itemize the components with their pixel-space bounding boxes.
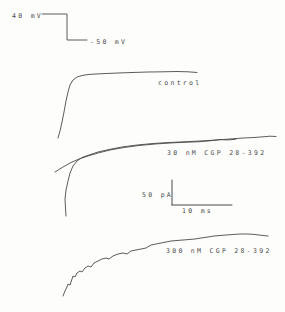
cgp300-trace [63,234,268,296]
voltage-step-top-label: 40 mV [12,12,43,20]
voltage-step-bottom-label: -50 mV [90,38,127,46]
control-trace-label: control [158,79,202,87]
cgp30-trace-label: 30 nM CGP 28-392 [167,149,266,157]
scale-bar-time-label: 10 ms [182,207,213,215]
cgp300-trace-label: 300 nM CGP 28-392 [166,247,272,255]
voltage-step-trace [42,14,87,40]
scale-bar-current-label: 50 pA [142,191,173,199]
figure-canvas: 40 mV -50 mV control 30 nM CGP 28-392 50… [0,0,285,312]
electrophysiology-figure: 40 mV -50 mV control 30 nM CGP 28-392 50… [0,0,285,312]
